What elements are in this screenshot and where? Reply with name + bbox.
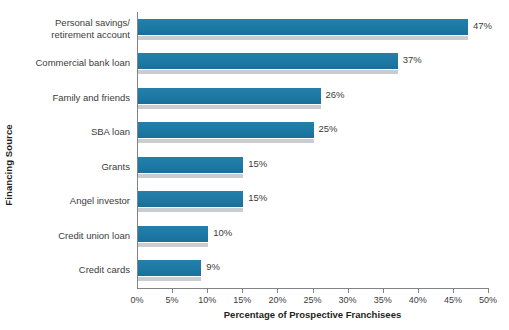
- bar-fill: [138, 19, 468, 35]
- x-axis-tick-label: 40%: [398, 295, 438, 305]
- bar-shadow: [138, 243, 208, 247]
- y-axis-title: Financing Source: [0, 0, 16, 330]
- bar-shadow: [138, 139, 314, 143]
- x-axis-tick-label: 50%: [468, 295, 508, 305]
- x-axis-tick: [418, 288, 419, 293]
- bar-fill: [138, 122, 314, 138]
- x-axis-tick: [453, 288, 454, 293]
- x-axis-tick-label: 15%: [222, 295, 262, 305]
- bar-row[interactable]: 9%: [138, 260, 201, 284]
- bar-shadow: [138, 70, 398, 74]
- category-label: Credit cards: [18, 264, 130, 276]
- bar-value-label: 15%: [248, 192, 267, 203]
- bar-value-label: 26%: [326, 89, 345, 100]
- bar-fill: [138, 53, 398, 69]
- category-label: SBA loan: [18, 126, 130, 138]
- bar-fill: [138, 260, 201, 276]
- x-axis-tick: [207, 288, 208, 293]
- x-axis-tick: [277, 288, 278, 293]
- bar-shadow: [138, 208, 243, 212]
- bar-shadow: [138, 174, 243, 178]
- x-axis-tick: [348, 288, 349, 293]
- bar-fill: [138, 226, 208, 242]
- bar-value-label: 10%: [213, 227, 232, 238]
- bar-fill: [138, 191, 243, 207]
- bar-shadow: [138, 36, 468, 40]
- x-axis-tick: [313, 288, 314, 293]
- x-axis-tick-label: 25%: [293, 295, 333, 305]
- x-axis-tick: [383, 288, 384, 293]
- x-axis-tick-label: 35%: [363, 295, 403, 305]
- bar-fill: [138, 157, 243, 173]
- bar-fill: [138, 88, 321, 104]
- bar-row[interactable]: 26%: [138, 88, 321, 112]
- x-axis-tick-label: 0%: [117, 295, 157, 305]
- bar-value-label: 37%: [403, 54, 422, 65]
- category-label: Personal savings/ retirement account: [18, 17, 130, 40]
- x-axis-tick-label: 20%: [257, 295, 297, 305]
- x-axis-tick: [172, 288, 173, 293]
- plot-area: 47%37%26%25%15%15%10%9%: [137, 12, 488, 288]
- category-label: Commercial bank loan: [18, 57, 130, 69]
- x-axis-title: Percentage of Prospective Franchisees: [137, 309, 488, 320]
- bar-row[interactable]: 15%: [138, 157, 243, 181]
- category-label: Credit union loan: [18, 230, 130, 242]
- x-axis-tick: [488, 288, 489, 293]
- category-label: Grants: [18, 161, 130, 173]
- bar-value-label: 47%: [473, 20, 492, 31]
- bar-chart: Financing Source Personal savings/ retir…: [0, 0, 509, 330]
- bar-value-label: 15%: [248, 158, 267, 169]
- bar-row[interactable]: 15%: [138, 191, 243, 215]
- category-label-group: Personal savings/ retirement accountComm…: [18, 12, 134, 288]
- x-axis-tick-label: 45%: [433, 295, 473, 305]
- bar-row[interactable]: 47%: [138, 19, 468, 43]
- bar-value-label: 9%: [206, 261, 220, 272]
- bar-row[interactable]: 37%: [138, 53, 398, 77]
- bar-row[interactable]: 10%: [138, 226, 208, 250]
- x-axis-tick-label: 10%: [187, 295, 227, 305]
- x-axis-tick-label: 5%: [152, 295, 192, 305]
- bar-shadow: [138, 277, 201, 281]
- x-axis-tick-group: 0%5%10%15%20%25%30%35%40%45%50%: [137, 288, 488, 310]
- bar-row[interactable]: 25%: [138, 122, 314, 146]
- x-axis-tick-label: 30%: [328, 295, 368, 305]
- x-axis-tick: [242, 288, 243, 293]
- bar-shadow: [138, 105, 321, 109]
- category-label: Family and friends: [18, 92, 130, 104]
- category-label: Angel investor: [18, 195, 130, 207]
- bar-value-label: 25%: [319, 123, 338, 134]
